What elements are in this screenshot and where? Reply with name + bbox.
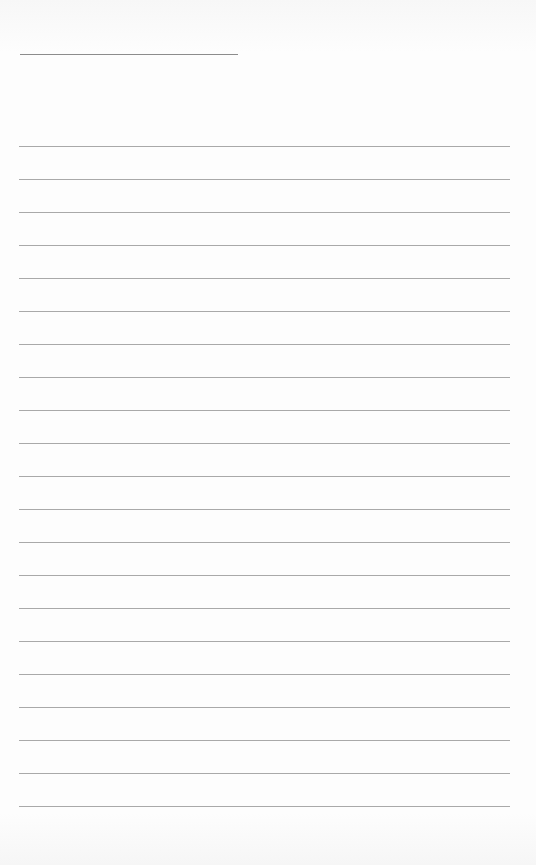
ruled-line	[19, 773, 510, 774]
ruled-line	[19, 476, 510, 477]
title-line	[20, 54, 238, 55]
ruled-line	[19, 806, 510, 807]
ruled-line	[19, 344, 510, 345]
ruled-line	[19, 179, 510, 180]
ruled-line	[19, 707, 510, 708]
ruled-line	[19, 509, 510, 510]
ruled-line	[19, 146, 510, 147]
ruled-line	[19, 377, 510, 378]
ruled-line	[19, 311, 510, 312]
ruled-line	[19, 641, 510, 642]
ruled-line	[19, 245, 510, 246]
ruled-line	[19, 674, 510, 675]
ruled-line	[19, 740, 510, 741]
ruled-line	[19, 575, 510, 576]
ruled-line	[19, 608, 510, 609]
ruled-line	[19, 542, 510, 543]
ruled-line	[19, 278, 510, 279]
ruled-line	[19, 443, 510, 444]
ruled-line	[19, 212, 510, 213]
lined-page	[0, 0, 536, 865]
ruled-line	[19, 410, 510, 411]
